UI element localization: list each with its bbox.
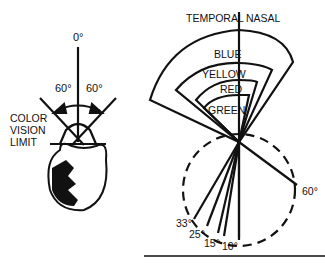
- green-label: GREEN: [208, 104, 245, 116]
- angle-60: 60°: [302, 185, 318, 197]
- angle-25: 25°: [189, 228, 205, 240]
- caption-line-3: LIMIT: [10, 136, 37, 148]
- nasal-label: NASAL: [246, 12, 281, 24]
- temporal-label: TEMPORAL: [186, 12, 244, 24]
- angle-10: 10°: [222, 240, 238, 252]
- blue-label: BLUE: [214, 48, 241, 60]
- right-angle-label: 60°: [86, 82, 103, 94]
- yellow-label: YELLOW: [202, 68, 246, 80]
- left-angle-label: 60°: [55, 82, 72, 94]
- eye-diagram: [40, 47, 116, 210]
- angle-15: 15°: [204, 237, 220, 249]
- caption-line-1: COLOR: [10, 112, 48, 124]
- red-label: RED: [220, 83, 243, 95]
- caption-line-2: VISION: [10, 124, 46, 136]
- color-vision-diagram: 0° 60° 60° COLOR VISION LIMIT TEMPORAL N…: [0, 0, 325, 265]
- diagram-canvas: 0° 60° 60° COLOR VISION LIMIT TEMPORAL N…: [0, 0, 325, 265]
- zero-label: 0°: [73, 31, 84, 43]
